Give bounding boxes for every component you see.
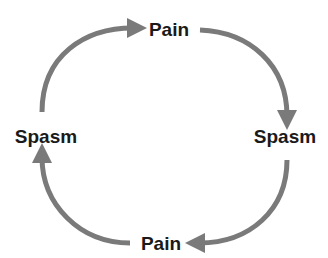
node-label-right: Spasm [254,126,316,147]
node-label-top: Pain [149,19,189,40]
arrow-pain-to-spasm-left [42,157,130,243]
node-label-left: Spasm [15,126,77,147]
diagram-canvas: Pain Spasm Pain Spasm [0,0,328,258]
node-label-bottom: Pain [141,233,181,254]
arrow-pain-to-spasm-right [200,30,287,116]
arrow-spasm-to-pain-bottom [199,160,287,243]
pain-spasm-cycle-diagram: Pain Spasm Pain Spasm [0,0,328,258]
arrow-spasm-to-pain-top [42,28,133,112]
